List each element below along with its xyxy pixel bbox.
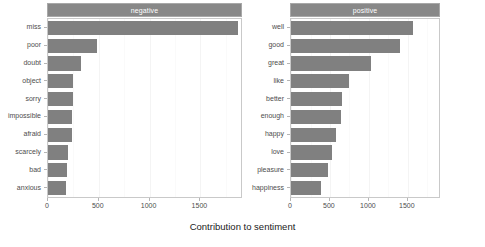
y-tick-mark: [287, 134, 290, 135]
x-axis-positive: 050010001500: [290, 198, 440, 225]
bar-miss: [48, 21, 238, 35]
bar-anxious: [48, 181, 66, 195]
y-tick-label-well: well: [272, 23, 284, 30]
bar-row: [291, 56, 439, 70]
x-tick-mark: [199, 198, 200, 201]
bar-row: [291, 163, 439, 177]
x-tick-label: 0: [45, 202, 49, 209]
x-tick-mark: [47, 198, 48, 201]
bar-row: [291, 39, 439, 53]
bar-row: [291, 128, 439, 142]
y-tick-mark: [44, 187, 47, 188]
y-tick-mark: [287, 116, 290, 117]
y-tick-mark: [287, 152, 290, 153]
y-tick-label-happy: happy: [265, 130, 284, 137]
bar-great: [291, 56, 371, 70]
bar-row: [291, 74, 439, 88]
y-tick-label-great: great: [268, 59, 284, 66]
x-tick-label: 500: [92, 202, 104, 209]
y-tick-label-love: love: [271, 148, 284, 155]
x-tick-label: 1000: [141, 202, 157, 209]
bar-series-positive: [291, 19, 439, 197]
x-tick-label: 1000: [360, 202, 376, 209]
bar-enough: [291, 110, 341, 124]
y-tick-label-object: object: [22, 77, 41, 84]
x-axis-negative: 050010001500: [47, 198, 242, 225]
y-axis-positive: wellgoodgreatlikebetterenoughhappylovepl…: [245, 18, 290, 198]
bar-row: [48, 110, 241, 124]
bar-row: [48, 74, 241, 88]
bar-sorry: [48, 92, 73, 106]
bar-pleasure: [291, 163, 328, 177]
bar-row: [48, 21, 241, 35]
y-tick-label-good: good: [268, 41, 284, 48]
y-tick-mark: [44, 134, 47, 135]
y-axis-negative: misspoordoubtobjectsorryimpossibleafraid…: [0, 18, 47, 198]
bar-doubt: [48, 56, 81, 70]
x-tick-label: 1500: [192, 202, 208, 209]
y-tick-mark: [287, 187, 290, 188]
y-tick-label-sorry: sorry: [25, 95, 41, 102]
x-tick-mark: [329, 198, 330, 201]
y-tick-label-happiness: happiness: [252, 184, 284, 191]
y-tick-label-bad: bad: [29, 166, 41, 173]
bar-poor: [48, 39, 97, 53]
y-tick-mark: [287, 169, 290, 170]
y-tick-mark: [44, 45, 47, 46]
x-tick-mark: [149, 198, 150, 201]
y-tick-label-anxious: anxious: [17, 184, 41, 191]
x-tick-mark: [407, 198, 408, 201]
y-tick-mark: [287, 80, 290, 81]
x-tick-label: 500: [323, 202, 335, 209]
y-tick-mark: [287, 45, 290, 46]
y-tick-label-afraid: afraid: [23, 130, 41, 137]
x-tick-mark: [98, 198, 99, 201]
y-tick-label-like: like: [273, 77, 284, 84]
y-tick-mark: [44, 116, 47, 117]
y-tick-mark: [44, 27, 47, 28]
y-tick-label-scarcely: scarcely: [15, 148, 41, 155]
bar-happiness: [291, 181, 321, 195]
bar-row: [291, 92, 439, 106]
bar-bad: [48, 163, 67, 177]
y-tick-mark: [287, 27, 290, 28]
facet-positive: positive wellgoodgreatlikebetterenoughha…: [245, 0, 485, 225]
x-tick-mark: [368, 198, 369, 201]
bar-happy: [291, 128, 336, 142]
y-tick-mark: [44, 80, 47, 81]
y-tick-mark: [44, 152, 47, 153]
bar-row: [48, 145, 241, 159]
bar-row: [48, 163, 241, 177]
x-tick-label: 1500: [399, 202, 415, 209]
x-tick-mark: [290, 198, 291, 201]
facet-negative: negative misspoordoubtobjectsorryimpossi…: [0, 0, 245, 225]
bar-row: [48, 92, 241, 106]
facet-strip-label-positive: positive: [353, 7, 378, 14]
y-tick-label-miss: miss: [27, 23, 41, 30]
bar-afraid: [48, 128, 72, 142]
bar-good: [291, 39, 400, 53]
bar-scarcely: [48, 145, 68, 159]
y-tick-mark: [44, 98, 47, 99]
y-tick-label-pleasure: pleasure: [257, 166, 284, 173]
bar-love: [291, 145, 332, 159]
bar-impossible: [48, 110, 72, 124]
bar-row: [48, 56, 241, 70]
bar-series-negative: [48, 19, 241, 197]
y-tick-mark: [44, 169, 47, 170]
bar-row: [291, 181, 439, 195]
y-tick-label-poor: poor: [27, 41, 41, 48]
bar-object: [48, 74, 73, 88]
y-tick-mark: [287, 63, 290, 64]
y-tick-mark: [44, 63, 47, 64]
bar-well: [291, 21, 413, 35]
y-tick-mark: [287, 98, 290, 99]
bar-row: [48, 39, 241, 53]
bar-row: [48, 128, 241, 142]
y-tick-label-impossible: impossible: [8, 112, 41, 119]
plot-panel-negative: [47, 18, 242, 198]
bar-row: [291, 145, 439, 159]
x-tick-label: 0: [288, 202, 292, 209]
facet-container: negative misspoordoubtobjectsorryimpossi…: [0, 0, 485, 225]
sentiment-contribution-chart: negative misspoordoubtobjectsorryimpossi…: [0, 0, 485, 247]
